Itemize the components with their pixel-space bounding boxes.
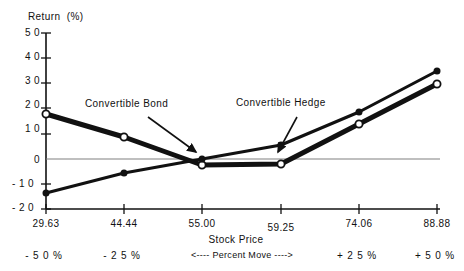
percent-move-label-pos50: + 5 0 % xyxy=(400,250,464,261)
x-tick-label-44-44: 44.44 xyxy=(89,218,159,229)
series-markers-convertible-bond xyxy=(42,80,440,168)
x-tick-label-88-88: 88.88 xyxy=(402,218,464,229)
plot-area xyxy=(0,0,464,271)
percent-move-label-pos25: + 2 5 % xyxy=(322,250,392,261)
series-label-convertible-bond: Convertible Bond xyxy=(85,98,168,109)
percent-move-label-neg25: - 2 5 % xyxy=(87,250,157,261)
return-chart: Return (%) 5 0 4 0 3 0 2 0 1 0 0 - 1 0 -… xyxy=(0,0,464,271)
x-axis-title: Stock Price xyxy=(176,234,296,245)
series-label-convertible-hedge: Convertible Hedge xyxy=(236,97,326,108)
x-tick-label-29-63: 29.63 xyxy=(11,218,81,229)
x-tick-label-74-06: 74.06 xyxy=(324,218,394,229)
x-tick-label-55-00: 55.00 xyxy=(167,218,237,229)
annotation-arrow-convertible-hedge xyxy=(278,117,297,152)
percent-move-label-neg50: - 5 0 % xyxy=(9,250,79,261)
x-tick-label-59-25: 59.25 xyxy=(246,222,316,233)
percent-move-caption: <---- Percent Move ----> xyxy=(172,250,312,260)
